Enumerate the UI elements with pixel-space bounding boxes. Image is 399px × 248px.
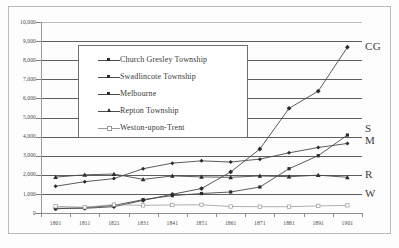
x-tick-label: 1851: [187, 220, 217, 226]
legend-marker: [107, 75, 110, 78]
data-point-marker: [112, 177, 116, 181]
series-line: [56, 143, 348, 186]
data-point-marker: [171, 194, 174, 197]
data-point-marker: [170, 161, 174, 165]
data-point-marker: [316, 145, 320, 149]
legend-item: Swadlincote Township: [79, 68, 247, 85]
data-point-marker: [54, 205, 57, 208]
legend-marker: [107, 92, 110, 95]
y-tick-label: 0: [2, 210, 36, 216]
data-point-marker: [200, 159, 204, 163]
series-line: [56, 135, 348, 209]
data-point-marker: [346, 204, 349, 207]
data-point-marker: [142, 198, 145, 201]
data-point-marker: [229, 160, 233, 164]
x-tick-label: 1811: [70, 220, 100, 226]
data-point-marker: [317, 204, 320, 207]
y-tick-label: 8,000: [2, 57, 36, 63]
y-tick-label: 3,000: [2, 152, 36, 158]
data-point-marker: [287, 205, 290, 208]
y-tick-label: 5,000: [2, 114, 36, 120]
data-point-marker: [229, 205, 232, 208]
data-point-marker: [141, 167, 145, 171]
legend-item: Weston-upon-Trent: [79, 119, 247, 136]
legend-item: Repton Township: [79, 102, 247, 119]
series-tag-r: R: [365, 168, 373, 180]
x-tick-mark: [158, 213, 159, 217]
series-w: [54, 203, 349, 209]
legend-marker: [107, 108, 111, 112]
series-r: [53, 172, 349, 182]
data-point-marker: [316, 89, 321, 94]
data-point-marker: [83, 206, 86, 209]
data-point-marker: [83, 180, 87, 184]
x-tick-mark: [333, 213, 334, 217]
data-point-marker: [317, 154, 320, 157]
series-m: [54, 141, 350, 188]
x-tick-mark: [99, 213, 100, 217]
x-tick-mark: [70, 213, 71, 217]
y-tick-label: 10,000: [2, 19, 36, 25]
x-axis-line: [41, 213, 362, 214]
data-point-marker: [171, 203, 174, 206]
series-tag-cg: CG: [365, 40, 381, 52]
x-tick-mark: [362, 213, 363, 217]
series-s: [54, 133, 349, 210]
legend-item-label: Repton Township: [120, 106, 179, 115]
chart-figure: 10,0009,0008,0007,0006,0005,0004,0003,00…: [0, 0, 399, 248]
data-point-marker: [112, 203, 115, 206]
data-point-marker: [200, 192, 203, 195]
legend-item-label: Church Gresley Township: [120, 55, 207, 64]
legend: Church Gresley TownshipSwadlincote Towns…: [78, 45, 248, 138]
x-tick-mark: [216, 213, 217, 217]
legend-item-label: Melbourne: [120, 89, 156, 98]
x-tick-label: 1891: [303, 220, 333, 226]
x-tick-label: 1821: [99, 220, 129, 226]
data-point-marker: [200, 203, 203, 206]
x-tick-label: 1861: [216, 220, 246, 226]
legend-marker: [107, 58, 110, 61]
series-tag-m: M: [365, 134, 375, 146]
x-tick-label: 1831: [128, 220, 158, 226]
legend-marker: [107, 126, 112, 131]
y-tick-label: 2,000: [2, 171, 36, 177]
legend-item-label: Weston-upon-Trent: [120, 123, 185, 132]
data-point-marker: [345, 141, 349, 145]
data-point-marker: [258, 205, 261, 208]
legend-item: Church Gresley Township: [79, 51, 247, 68]
data-point-marker: [345, 45, 350, 50]
y-tick-label: 1,000: [2, 191, 36, 197]
x-tick-mark: [304, 213, 305, 217]
y-tick-label: 9,000: [2, 38, 36, 44]
y-tick-label: 6,000: [2, 95, 36, 101]
data-point-marker: [258, 185, 261, 188]
x-tick-label: 1841: [157, 220, 187, 226]
legend-item-label: Swadlincote Township: [120, 72, 196, 81]
data-point-marker: [54, 184, 58, 188]
legend-item: Melbourne: [79, 85, 247, 102]
x-tick-mark: [274, 213, 275, 217]
x-tick-label: 1901: [332, 220, 362, 226]
x-tick-label: 1871: [245, 220, 275, 226]
x-tick-mark: [187, 213, 188, 217]
y-tick-label: 4,000: [2, 133, 36, 139]
series-tag-s: S: [365, 122, 371, 134]
data-point-marker: [346, 133, 349, 136]
data-point-marker: [287, 151, 291, 155]
data-point-marker: [229, 190, 232, 193]
data-point-marker: [141, 204, 144, 207]
x-tick-mark: [129, 213, 130, 217]
data-point-marker: [199, 186, 204, 191]
x-tick-label: 1881: [274, 220, 304, 226]
x-tick-label: 1801: [41, 220, 71, 226]
series-tag-w: W: [365, 187, 376, 199]
x-tick-mark: [41, 213, 42, 217]
data-point-marker: [258, 157, 262, 161]
y-tick-label: 7,000: [2, 76, 36, 82]
x-tick-mark: [245, 213, 246, 217]
data-point-marker: [287, 167, 290, 170]
